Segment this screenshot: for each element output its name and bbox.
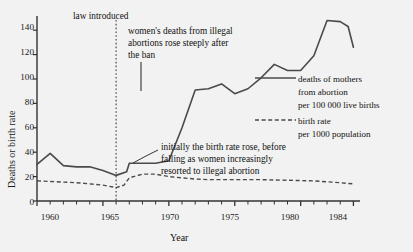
y-tick-0: 0 — [8, 197, 34, 208]
x-tick-1960: 1960 — [33, 212, 67, 223]
legend-solid-line3: per 100 000 live births — [298, 100, 380, 110]
y-tick-40: 40 — [8, 147, 34, 158]
x-tick-1984: 1984 — [321, 212, 355, 223]
y-tick-80: 80 — [8, 97, 34, 108]
x-axis-title: Year — [170, 232, 188, 244]
annotation-deaths-line3: the ban — [128, 50, 155, 61]
x-tick-1980: 1980 — [273, 212, 307, 223]
y-tick-20: 20 — [8, 172, 34, 183]
annotation-birthrate-line3: resorted to illegal abortion — [161, 166, 259, 177]
y-tick-120: 120 — [8, 47, 34, 58]
legend-dashed-line1: birth rate — [298, 116, 331, 126]
y-tick-60: 60 — [8, 122, 34, 133]
annotation-birthrate-line1: initially the birth rate rose, before — [161, 142, 286, 153]
chart-figure: Deaths or birth rate 140 120 100 80 60 4… — [0, 0, 413, 252]
annotation-deaths-line1: women's deaths from illegal — [128, 26, 233, 37]
annotation-law-introduced: law introduced — [73, 11, 129, 22]
x-tick-1965: 1965 — [93, 212, 127, 223]
x-tick-1970: 1970 — [153, 212, 187, 223]
y-tick-100: 100 — [8, 72, 34, 83]
x-tick-1975: 1975 — [213, 212, 247, 223]
legend-solid-line1: deaths of mothers — [298, 74, 362, 84]
annotation-birthrate-line2: falling as women increasingly — [161, 154, 273, 165]
legend-dashed-line2: per 1000 population — [298, 129, 371, 139]
legend-solid-line2: from abortion — [298, 87, 348, 97]
y-tick-140: 140 — [8, 22, 34, 33]
annotation-deaths-line2: abortions rose steeply after — [128, 38, 228, 49]
